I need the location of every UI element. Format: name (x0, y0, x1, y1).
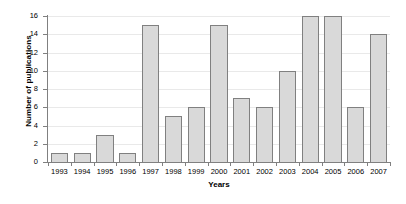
x-axis-tick (322, 163, 323, 166)
x-axis-tick (48, 163, 49, 166)
y-axis-line (47, 15, 48, 163)
bar (347, 107, 364, 162)
y-axis-tick-label: 12 (8, 49, 38, 57)
x-axis-tick (185, 163, 186, 166)
bar (188, 107, 205, 162)
y-axis-tick-label: 0 (8, 158, 38, 166)
x-axis-tick (71, 163, 72, 166)
bar (256, 107, 273, 162)
x-axis-tick-label: 2007 (364, 167, 394, 176)
bar (370, 34, 387, 162)
y-axis-tick-label: 16 (8, 12, 38, 20)
bar (165, 116, 182, 162)
x-axis-title: Years (48, 180, 390, 189)
x-axis-tick (390, 163, 391, 166)
y-axis-tick-label: 8 (8, 85, 38, 93)
plot-area (48, 16, 390, 162)
bar (74, 153, 91, 162)
bar (324, 16, 341, 162)
x-axis-tick (230, 163, 231, 166)
bar (96, 135, 113, 162)
x-axis-line (47, 162, 391, 163)
bar (233, 98, 250, 162)
y-axis-tick-label: 10 (8, 67, 38, 75)
bar (279, 71, 296, 162)
y-axis-title: Number of publications (22, 0, 36, 162)
y-axis-tick-label: 6 (8, 103, 38, 111)
x-axis-tick (253, 163, 254, 166)
x-axis-tick (208, 163, 209, 166)
x-axis-tick (299, 163, 300, 166)
x-axis-tick (116, 163, 117, 166)
x-axis-tick (367, 163, 368, 166)
x-axis-tick (344, 163, 345, 166)
bar (142, 25, 159, 162)
y-axis-tick-label: 4 (8, 122, 38, 130)
bar (302, 16, 319, 162)
x-axis-tick (162, 163, 163, 166)
y-axis-tick-label: 2 (8, 140, 38, 148)
bar (119, 153, 136, 162)
x-axis-tick (276, 163, 277, 166)
x-axis-tick (139, 163, 140, 166)
y-axis-tick-label: 14 (8, 30, 38, 38)
bar (210, 25, 227, 162)
bar-chart: Number of publications 0246810121416 199… (0, 0, 406, 204)
bar (51, 153, 68, 162)
x-axis-tick (94, 163, 95, 166)
